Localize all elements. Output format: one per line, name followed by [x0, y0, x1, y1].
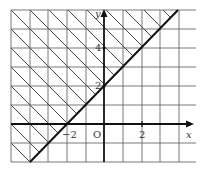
x-axis-label: x — [186, 129, 192, 140]
y-tick-label-2: 2 — [95, 80, 101, 91]
x-axis-arrow-icon — [186, 121, 194, 128]
y-tick-label-4: 4 — [95, 42, 101, 53]
x-tick-label-neg2: −2 — [62, 129, 77, 140]
y-axis-label: y — [94, 8, 101, 19]
x-tick-label-2: 2 — [139, 129, 145, 140]
origin-label: O — [93, 129, 101, 140]
y-tick-4 — [102, 46, 105, 49]
inequality-graph: y x O −2 2 4 2 — [0, 0, 210, 173]
